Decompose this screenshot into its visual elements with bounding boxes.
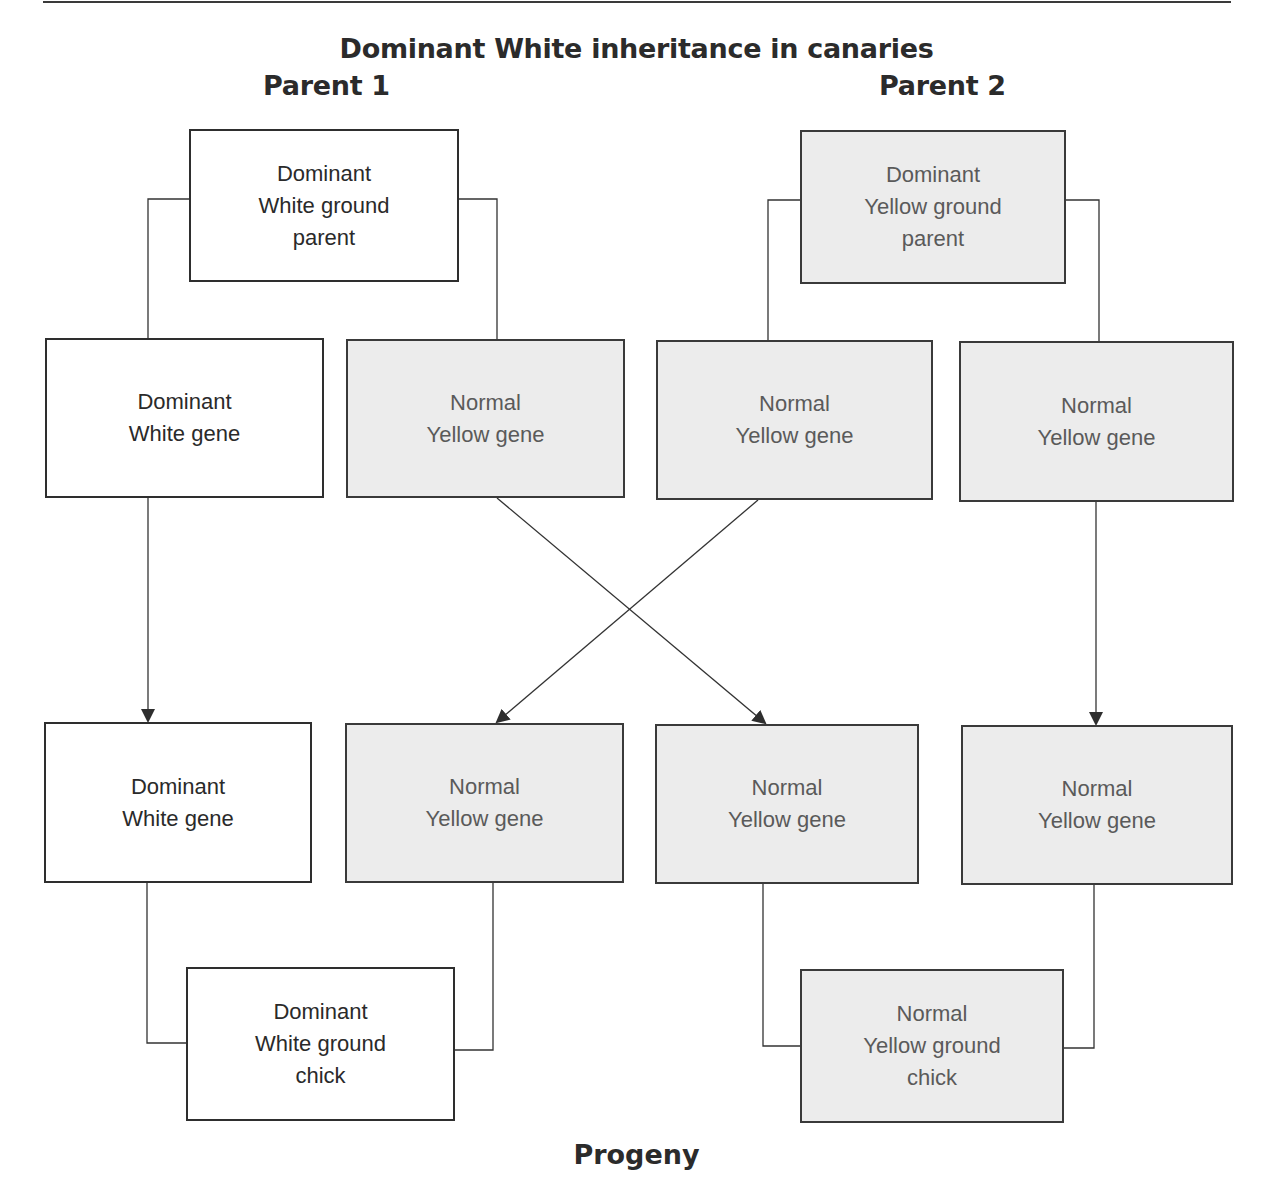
p1-gene-b-line1: Normal bbox=[427, 387, 545, 419]
chick1-line1: Dominant bbox=[255, 996, 386, 1028]
parent2-box: Dominant Yellow ground parent bbox=[800, 130, 1066, 284]
chick2-box: Normal Yellow ground chick bbox=[800, 969, 1064, 1123]
connector-parent1-to-yellow-gene bbox=[458, 199, 497, 339]
chick1-gene-a-line2: White gene bbox=[122, 803, 233, 835]
chick2-gene-b-line1: Normal bbox=[1038, 773, 1156, 805]
chick2-line2: Yellow ground bbox=[863, 1030, 1000, 1062]
connector-white-gene-to-chick1 bbox=[147, 882, 186, 1043]
chick1-gene-b-box: Normal Yellow gene bbox=[345, 723, 624, 883]
connector-yellow-gene-to-chick2-a bbox=[763, 883, 800, 1046]
chick1-box: Dominant White ground chick bbox=[186, 967, 455, 1121]
chick1-gene-b-line2: Yellow gene bbox=[426, 803, 544, 835]
parent1-line2: White ground bbox=[259, 190, 390, 222]
p1-gene-a-box: Dominant White gene bbox=[45, 338, 324, 498]
p2-gene-a-line1: Normal bbox=[736, 388, 854, 420]
p1-gene-b-box: Normal Yellow gene bbox=[346, 339, 625, 498]
p2-gene-a-line2: Yellow gene bbox=[736, 420, 854, 452]
chick2-line3: chick bbox=[863, 1062, 1000, 1094]
chick1-line2: White ground bbox=[255, 1028, 386, 1060]
chick1-gene-a-line1: Dominant bbox=[122, 771, 233, 803]
parent1-box: Dominant White ground parent bbox=[189, 129, 459, 282]
chick2-gene-a-box: Normal Yellow gene bbox=[655, 724, 919, 884]
arrow-p2-yellow-to-chick1 bbox=[497, 500, 758, 722]
p2-gene-a-box: Normal Yellow gene bbox=[656, 340, 933, 500]
chick2-gene-a-line2: Yellow gene bbox=[728, 804, 846, 836]
connector-parent2-to-yellow-gene-a bbox=[768, 200, 800, 340]
connector-yellow-gene-to-chick2-b bbox=[1063, 884, 1094, 1048]
arrow-p1-yellow-to-chick2 bbox=[497, 498, 765, 723]
p1-gene-a-line2: White gene bbox=[129, 418, 240, 450]
chick1-gene-a-box: Dominant White gene bbox=[44, 722, 312, 883]
connector-yellow-gene-to-chick1 bbox=[454, 882, 493, 1050]
progeny-label: Progeny bbox=[0, 1139, 1273, 1170]
p2-gene-b-box: Normal Yellow gene bbox=[959, 341, 1234, 502]
parent2-line2: Yellow ground bbox=[864, 191, 1001, 223]
parent1-line1: Dominant bbox=[259, 158, 390, 190]
p2-gene-b-line2: Yellow gene bbox=[1038, 422, 1156, 454]
chick1-line3: chick bbox=[255, 1060, 386, 1092]
connector-parent1-to-white-gene bbox=[148, 199, 189, 338]
p1-gene-a-line1: Dominant bbox=[129, 386, 240, 418]
p2-gene-b-line1: Normal bbox=[1038, 390, 1156, 422]
parent1-line3: parent bbox=[259, 222, 390, 254]
chick2-gene-a-line1: Normal bbox=[728, 772, 846, 804]
p1-gene-b-line2: Yellow gene bbox=[427, 419, 545, 451]
parent2-line3: parent bbox=[864, 223, 1001, 255]
parent2-line1: Dominant bbox=[864, 159, 1001, 191]
chick2-line1: Normal bbox=[863, 998, 1000, 1030]
chick2-gene-b-box: Normal Yellow gene bbox=[961, 725, 1233, 885]
connector-parent2-to-yellow-gene-b bbox=[1065, 200, 1099, 341]
chick2-gene-b-line2: Yellow gene bbox=[1038, 805, 1156, 837]
chick1-gene-b-line1: Normal bbox=[426, 771, 544, 803]
